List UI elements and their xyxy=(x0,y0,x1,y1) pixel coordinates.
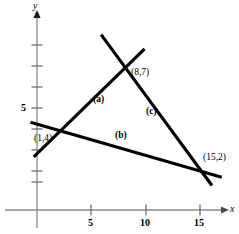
y-tick-label-5: 5 xyxy=(21,103,26,113)
x-tick-label-10: 10 xyxy=(140,218,150,228)
graph-figure: y x 5 10 15 5 (8,7) (1,4) (15,2) (a) (b)… xyxy=(0,0,239,234)
segment-label-c: (c) xyxy=(146,107,157,117)
axis-group xyxy=(5,10,229,228)
point-label-1-4: (1,4) xyxy=(34,134,52,144)
data-segments xyxy=(30,35,221,186)
segment-label-b: (b) xyxy=(115,131,127,141)
x-axis-label: x xyxy=(230,204,234,214)
segment-label-a: (a) xyxy=(93,95,104,105)
y-axis-arrowhead xyxy=(33,10,40,18)
point-label-8-7: (8,7) xyxy=(131,68,149,78)
x-axis-arrowhead xyxy=(221,206,229,213)
point-label-15-2: (15,2) xyxy=(203,153,226,163)
x-tick-label-15: 15 xyxy=(194,218,204,228)
y-axis-label: y xyxy=(33,1,37,11)
x-tick-label-5: 5 xyxy=(88,218,93,228)
graph-canvas xyxy=(0,0,239,234)
